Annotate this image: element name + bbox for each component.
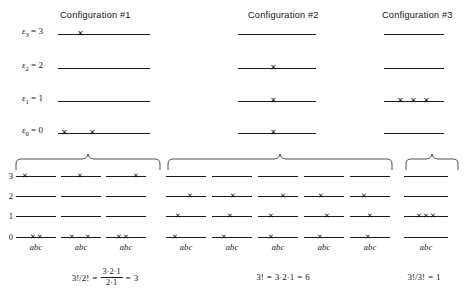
top-config1-level-0 <box>58 133 150 134</box>
g2-ms3-particle: ✕ <box>268 233 274 240</box>
top-config3-particle-l1-2: ✕ <box>410 97 417 105</box>
g2-ms5-particle: ✕ <box>361 192 367 199</box>
formula-1-eq2: = <box>126 273 131 283</box>
g2-ms3-level-3 <box>258 176 298 177</box>
top-config3-particle-l1-1: ✕ <box>397 97 404 105</box>
g2-ms1-particle: ✕ <box>187 192 193 199</box>
g2-ms2-particle: ✕ <box>221 233 227 240</box>
g1-ms1-level-1 <box>16 216 56 217</box>
g2-ms3-level-0 <box>258 237 298 238</box>
microstate-row-number-0: 0 <box>9 232 13 242</box>
top-config1-level-3 <box>58 34 150 35</box>
g2-ms1-level-1 <box>166 216 206 217</box>
g2-ms4-particle: ✕ <box>324 212 330 219</box>
g1-ms1-particle: ✕ <box>30 233 36 240</box>
g2-ms3-particle: ✕ <box>280 192 286 199</box>
energy-label-0: ε0 = 0 <box>22 125 43 137</box>
g1-ms3-label: abc <box>120 243 133 252</box>
g2-ms4-particle: ✕ <box>317 233 323 240</box>
formula-1-lhs: 3!/2! <box>72 273 90 283</box>
g2-ms2-particle: ✕ <box>230 192 236 199</box>
g2-ms2-particle: ✕ <box>227 212 233 219</box>
g1-ms2-label: abc <box>75 243 88 252</box>
energy-level-configurations-figure: Configuration #1 Configuration #2 Config… <box>0 0 468 298</box>
g3-ms1-particle: ✕ <box>423 212 429 219</box>
formula-group-3: 3!/3! = 1 <box>407 272 440 282</box>
g1-ms1-particle: ✕ <box>37 233 43 240</box>
top-config3-particle-l1-3: ✕ <box>423 97 430 105</box>
formula-2-lhs: 3! <box>256 272 264 282</box>
g3-ms1-level-3 <box>404 176 448 177</box>
energy-label-1: ε1 = 1 <box>22 93 43 105</box>
g2-ms5-level-2 <box>350 196 390 197</box>
g2-ms3-level-2 <box>258 196 298 197</box>
energy-label-2: ε2 = 2 <box>22 60 43 72</box>
formula-2-eq2: = <box>297 272 302 282</box>
formula-1-result: 3 <box>134 273 139 283</box>
top-config2-level-2 <box>238 68 316 69</box>
formula-group-2: 3! = 3·2·1 = 6 <box>256 272 310 282</box>
g1-ms1-level-2 <box>16 196 56 197</box>
g2-ms4-level-2 <box>304 196 344 197</box>
g1-ms3-level-1 <box>106 216 146 217</box>
g2-ms2-level-0 <box>212 237 252 238</box>
config-title-2: Configuration #2 <box>248 10 319 20</box>
top-config1-particle-l0-2: ✕ <box>89 129 96 137</box>
brace-group-3 <box>404 153 460 171</box>
formula-1-fraction: 3·2·1 2·1 <box>100 268 122 288</box>
g1-ms3-particle: ✕ <box>133 172 139 179</box>
g2-ms1-label: abc <box>180 243 193 252</box>
top-config2-level-1 <box>238 101 316 102</box>
g1-ms2-level-1 <box>61 216 101 217</box>
formula-2-result: 6 <box>305 272 310 282</box>
g2-ms5-particle: ✕ <box>367 212 373 219</box>
top-config2-particle-l1-1: ✕ <box>270 97 277 105</box>
g2-ms2-label: abc <box>226 243 239 252</box>
g3-ms1-particle: ✕ <box>416 212 422 219</box>
g1-ms3-particle: ✕ <box>116 233 122 240</box>
g3-ms1-particle: ✕ <box>430 212 436 219</box>
formula-3-result: 1 <box>436 272 441 282</box>
formula-2-eq1: = <box>267 272 272 282</box>
g1-ms2-particle: ✕ <box>85 233 91 240</box>
formula-2-expansion: 3·2·1 <box>275 272 295 282</box>
g1-ms3-particle: ✕ <box>123 233 129 240</box>
g2-ms4-particle: ✕ <box>318 192 324 199</box>
formula-3-eq1: = <box>428 272 433 282</box>
microstate-row-number-2: 2 <box>9 191 13 201</box>
microstate-row-number-1: 1 <box>9 211 13 221</box>
formula-group-1: 3!/2! = 3·2·1 2·1 = 3 <box>72 268 138 288</box>
g3-ms1-label: abc <box>420 243 433 252</box>
config-title-3: Configuration #3 <box>382 10 453 20</box>
formula-3-lhs: 3!/3! <box>407 272 425 282</box>
config-title-1: Configuration #1 <box>60 10 131 20</box>
g2-ms4-level-3 <box>304 176 344 177</box>
g2-ms3-particle: ✕ <box>268 212 274 219</box>
microstate-row-number-3: 3 <box>9 171 13 181</box>
g3-ms1-level-0 <box>404 237 448 238</box>
g2-ms3-level-1 <box>258 216 298 217</box>
g2-ms1-level-2 <box>166 196 206 197</box>
top-config2-particle-l2-1: ✕ <box>270 64 277 72</box>
g1-ms3-level-3 <box>106 176 146 177</box>
g2-ms1-level-3 <box>166 176 206 177</box>
g2-ms1-particle: ✕ <box>172 233 178 240</box>
formula-1-eq1: = <box>92 273 97 283</box>
g2-ms5-level-3 <box>350 176 390 177</box>
g2-ms1-particle: ✕ <box>175 212 181 219</box>
g1-ms2-particle: ✕ <box>77 172 83 179</box>
g2-ms5-particle: ✕ <box>365 233 371 240</box>
top-config1-particle-l0-1: ✕ <box>61 129 68 137</box>
g1-ms1-particle: ✕ <box>22 172 28 179</box>
formula-1-denominator: 2·1 <box>104 278 119 287</box>
g1-ms2-level-2 <box>61 196 101 197</box>
top-config3-level-2 <box>384 68 444 69</box>
top-config1-particle-l3-1: ✕ <box>77 30 84 38</box>
g2-ms3-label: abc <box>272 243 285 252</box>
top-config2-level-0 <box>238 133 316 134</box>
g2-ms4-level-0 <box>304 237 344 238</box>
brace-group-2 <box>166 153 395 171</box>
top-config2-particle-l0-1: ✕ <box>270 129 277 137</box>
g1-ms3-level-2 <box>106 196 146 197</box>
top-config2-level-3 <box>238 34 316 35</box>
